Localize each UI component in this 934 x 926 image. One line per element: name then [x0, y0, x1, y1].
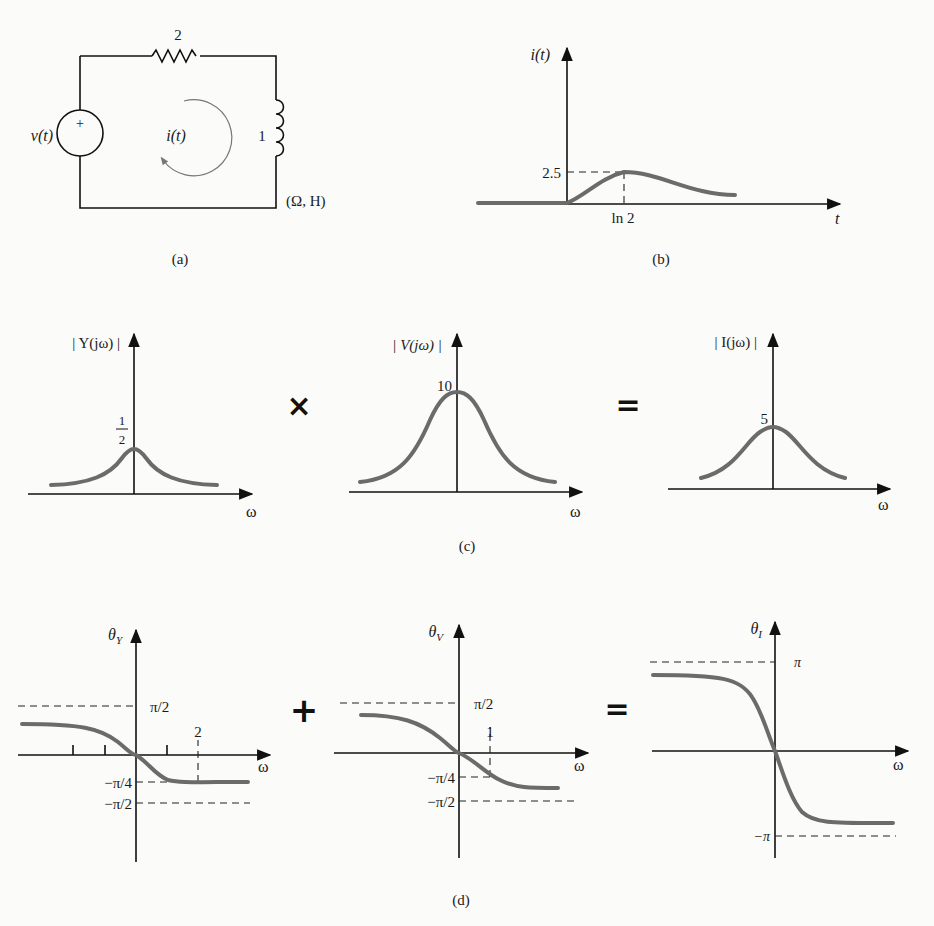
inductor-symbol: [276, 100, 284, 156]
thetaY-tick-label: 2: [194, 724, 202, 740]
V-mag-x-label: ω: [570, 503, 581, 520]
peak-time-label: ln 2: [612, 210, 635, 226]
equals-operator-icon: =: [615, 387, 640, 422]
Y-mag-label: | Y(jω) |: [72, 335, 120, 352]
thetaY-lower-label: −π/2: [104, 796, 132, 812]
equals-operator-icon-2: =: [604, 691, 629, 726]
thetaI-upper-label: π: [794, 655, 802, 670]
chart-it: [478, 48, 840, 204]
thetaV-x-label: ω: [574, 757, 585, 774]
multiply-operator-icon: ×: [286, 388, 311, 423]
I-mag-x-label: ω: [878, 496, 889, 513]
it-y-label: i(t): [530, 46, 550, 64]
resistor-symbol: [152, 50, 196, 62]
plus-operator-icon: +: [290, 690, 319, 730]
units-label: (Ω, H): [286, 193, 325, 210]
chart-Y-magnitude: [28, 334, 252, 494]
V-mag-label: | V(jω) |: [392, 337, 442, 354]
caption-c: (c): [459, 538, 476, 555]
peak-value-label: 2.5: [542, 165, 561, 181]
source-polarity: +: [76, 116, 84, 131]
thetaV-tick-label: 1: [486, 724, 494, 740]
chart-I-magnitude: [668, 334, 890, 489]
V-peak-label: 10: [437, 378, 452, 394]
I-peak-label: 5: [761, 411, 769, 427]
chart-theta-Y: [18, 630, 270, 862]
caption-d: (d): [452, 892, 470, 909]
thetaV-upper-label: π/2: [474, 696, 493, 712]
thetaY-mid-label: −π/4: [104, 775, 132, 791]
thetaI-lower-label: −π: [754, 829, 771, 844]
thetaI-x-label: ω: [893, 756, 904, 773]
thetaY-upper-label: π/2: [150, 699, 169, 715]
source-label: v(t): [31, 127, 53, 145]
caption-a: (a): [172, 251, 189, 268]
inductor-value: 1: [258, 128, 266, 144]
chart-V-magnitude: [349, 334, 582, 492]
figure-canvas: 2 + v(t) i(t) 1 (Ω, H) (a) i(t) t 2.5 ln…: [0, 0, 934, 926]
resistor-value: 2: [174, 27, 182, 43]
thetaV-label: θV: [428, 623, 444, 643]
caption-b: (b): [652, 251, 670, 268]
thetaY-label: θY: [108, 626, 124, 646]
Y-peak-num: 1: [119, 413, 126, 428]
thetaV-lower-label: −π/2: [427, 794, 455, 810]
I-mag-label: | I(jω) |: [714, 334, 757, 351]
thetaY-x-label: ω: [258, 758, 269, 775]
thetaV-mid-label: −π/4: [427, 770, 455, 786]
Y-mag-x-label: ω: [246, 503, 257, 520]
chart-theta-I: [650, 622, 908, 858]
chart-theta-V: [334, 625, 588, 858]
thetaI-label: θI: [750, 620, 763, 640]
Y-peak-den: 2: [119, 432, 126, 447]
current-label: i(t): [166, 127, 186, 145]
it-x-label: t: [835, 210, 840, 227]
